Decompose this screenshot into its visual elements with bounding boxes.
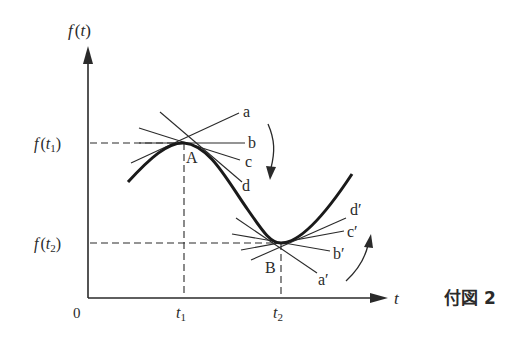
y-tick-f-t2-close: ) <box>56 235 61 253</box>
x-tick-t2: t2 <box>273 304 283 323</box>
x-tick-t2-sub: 2 <box>277 311 283 323</box>
figure-caption: 付図 2 <box>444 288 496 308</box>
origin-label: 0 <box>73 305 81 321</box>
rotation-arrow-A-icon <box>268 124 274 168</box>
y-axis-label-arg: (t) <box>75 21 91 40</box>
label-d: d <box>242 177 250 194</box>
y-tick-f-t1-close: ) <box>56 135 61 153</box>
point-B-label: B <box>265 259 276 276</box>
x-axis-label: t <box>394 289 400 308</box>
line-a-prime <box>236 218 317 273</box>
label-d-prime: d′ <box>350 201 362 218</box>
rotation-arrow-A-head-icon <box>266 166 276 180</box>
function-curve <box>128 143 352 243</box>
label-c-prime: c′ <box>347 223 358 240</box>
label-b-prime: b′ <box>333 245 345 262</box>
label-c: c <box>245 153 252 170</box>
line-d <box>160 112 242 182</box>
line-d-prime <box>251 218 346 260</box>
label-a-prime: a′ <box>318 271 329 288</box>
x-axis-arrow-icon <box>370 293 388 303</box>
rotation-arrow-B-head-icon <box>364 234 373 248</box>
y-tick-f-t1: f(t1) <box>34 135 61 154</box>
lines-at-A <box>131 112 245 182</box>
label-a: a <box>243 103 250 120</box>
y-axis-label: f(t) <box>68 21 91 40</box>
x-tick-t1-sub: 1 <box>180 311 186 323</box>
label-b: b <box>248 134 256 151</box>
axes <box>83 46 388 303</box>
point-A-label: A <box>186 149 198 166</box>
line-a <box>131 113 239 163</box>
tangent-lines-diagram: f(t) t 0 t1 t2 f(t1) f(t2) A B a <box>0 0 524 339</box>
x-tick-t1: t1 <box>176 304 186 323</box>
lines-at-B <box>232 218 346 273</box>
rotation-arrow-B-icon <box>346 245 368 281</box>
y-tick-f-t2: f(t2) <box>34 235 61 254</box>
y-axis-arrow-icon <box>83 46 93 64</box>
guide-lines <box>90 143 281 297</box>
